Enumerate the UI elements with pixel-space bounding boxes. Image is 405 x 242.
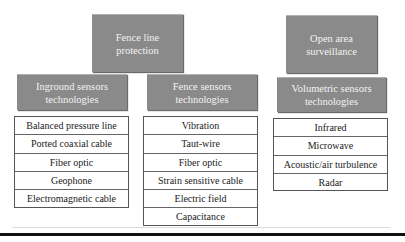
list-item: Electric field [144, 190, 257, 208]
list-item: Acoustic/air turbulence [274, 156, 387, 174]
list-item: Fiber optic [144, 154, 257, 172]
open-area-surveillance-box: Open area surveillance [286, 15, 377, 73]
inground-sensors-title: Inground sensors technologies [23, 80, 121, 106]
list-item: Ported coaxial cable [15, 135, 128, 153]
volumetric-sensors-header: Volumetric sensors technologies [277, 77, 386, 112]
fence-sensors-list: Vibration Taut-wire Fiber optic Strain s… [143, 116, 258, 226]
list-item: Electromagnetic cable [15, 190, 128, 208]
list-item: Balanced pressure line [15, 117, 128, 135]
fence-line-protection-box: Fence line protection [92, 14, 183, 72]
inground-sensors-header: Inground sensors technologies [17, 74, 127, 110]
list-item: Microwave [274, 137, 387, 155]
list-item: Fiber optic [15, 154, 128, 172]
list-item: Capacitance [144, 208, 257, 226]
open-area-surveillance-label: Open area surveillance [300, 32, 363, 58]
divider-thin [12, 227, 390, 228]
inground-sensors-list: Balanced pressure line Ported coaxial ca… [14, 116, 129, 208]
list-item: Geophone [15, 172, 128, 190]
list-item: Infrared [274, 119, 387, 137]
list-item: Strain sensitive cable [144, 172, 257, 190]
volumetric-sensors-list: Infrared Microwave Acoustic/air turbulen… [273, 118, 388, 191]
fence-sensors-title: Fence sensors technologies [161, 80, 243, 106]
list-item: Radar [274, 174, 387, 192]
volumetric-sensors-title: Volumetric sensors technologies [283, 82, 380, 108]
list-item: Vibration [144, 117, 257, 135]
divider-thick [0, 233, 405, 236]
fence-line-protection-label: Fence line protection [106, 31, 169, 57]
fence-sensors-header: Fence sensors technologies [147, 74, 257, 110]
list-item: Taut-wire [144, 135, 257, 153]
